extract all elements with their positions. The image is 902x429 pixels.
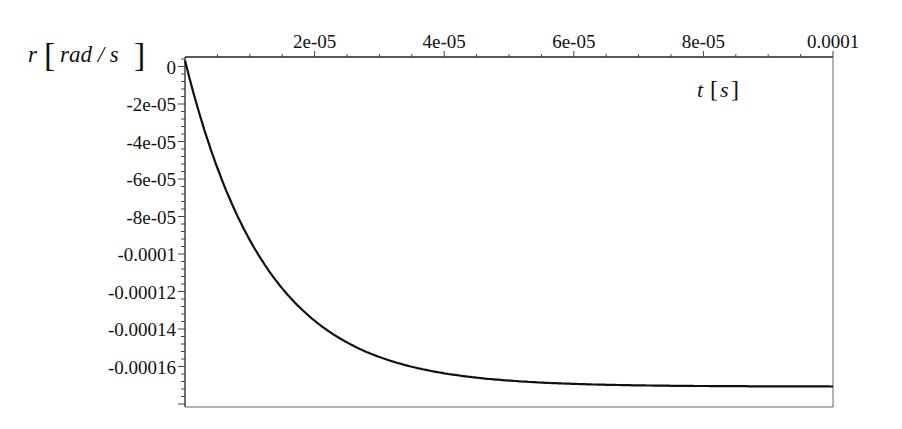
x-axis: 2e-054e-056e-058e-050.0001: [217, 31, 859, 57]
y-axis-label-var: r: [28, 42, 38, 67]
y-axis-label-bracket-left: [: [44, 36, 55, 73]
x-tick-label: 0.0001: [807, 31, 859, 52]
y-axis-label: r [ rad / s ]: [28, 36, 145, 73]
x-axis-label-unit: s: [720, 77, 729, 102]
y-tick-label: 0: [167, 57, 177, 78]
plot-frame: [185, 57, 833, 407]
y-tick-label: -4e-05: [126, 132, 176, 153]
x-axis-label-bracket-right: ]: [731, 76, 739, 102]
chart: 2e-054e-056e-058e-050.0001 0-2e-05-4e-05…: [0, 0, 902, 429]
x-axis-label: t [ s ]: [697, 76, 739, 102]
y-tick-label: -0.00016: [108, 357, 176, 378]
x-tick-label: 4e-05: [423, 31, 466, 52]
x-axis-label-bracket-left: [: [710, 76, 718, 102]
y-tick-label: -6e-05: [126, 169, 176, 190]
y-tick-label: -0.00012: [108, 282, 176, 303]
x-tick-label: 6e-05: [552, 31, 595, 52]
y-tick-label: -0.0001: [117, 244, 176, 265]
y-tick-label: -0.00014: [108, 319, 177, 340]
y-tick-label: -8e-05: [126, 207, 176, 228]
x-tick-label: 2e-05: [293, 31, 336, 52]
x-tick-label: 8e-05: [682, 31, 725, 52]
data-line: [185, 61, 833, 387]
y-axis-label-unit: rad / s: [60, 42, 119, 67]
y-axis-label-bracket-right: ]: [134, 36, 145, 73]
x-axis-label-var: t: [697, 77, 704, 102]
y-axis: 0-2e-05-4e-05-6e-05-8e-05-0.0001-0.00012…: [108, 57, 185, 405]
y-tick-label: -2e-05: [126, 94, 176, 115]
